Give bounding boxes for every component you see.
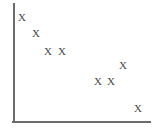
data-point-marker: X <box>107 75 115 87</box>
data-point-marker: X <box>18 11 26 23</box>
data-point-marker: X <box>58 45 66 57</box>
scatter-chart-figure: XXXXXXXX <box>0 0 158 136</box>
data-point-marker: X <box>119 59 127 71</box>
data-point-marker: X <box>44 45 52 57</box>
plot-area: XXXXXXXX <box>0 0 158 136</box>
data-point-marker: X <box>94 75 102 87</box>
data-point-marker: X <box>134 102 142 114</box>
data-markers-group: XXXXXXXX <box>18 11 142 114</box>
data-point-marker: X <box>32 27 40 39</box>
